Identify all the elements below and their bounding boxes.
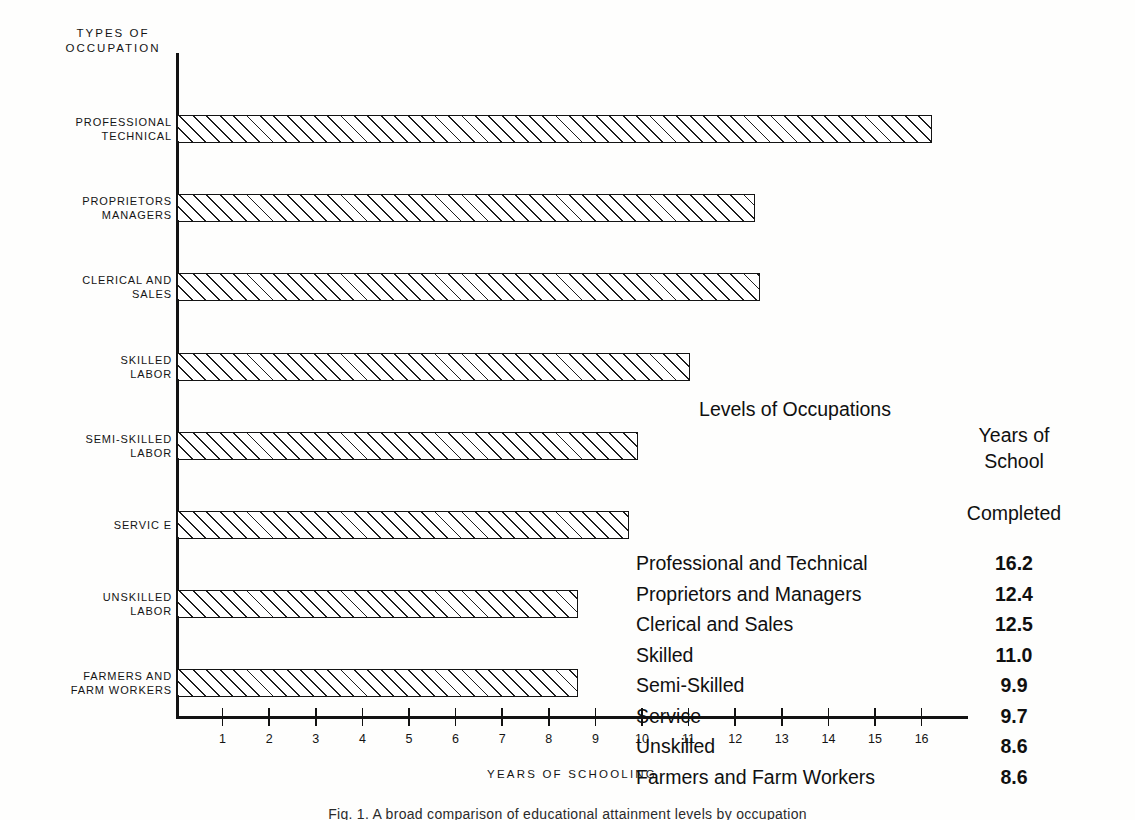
x-tick-2 — [268, 708, 270, 726]
category-label-7: FARMERS AND FARM WORKERS — [16, 669, 172, 697]
data-table: Levels of Occupations Years of School Co… — [636, 372, 1106, 796]
y-axis-line — [176, 53, 179, 718]
category-label-0: PROFESSIONAL TECHNICAL — [16, 115, 172, 143]
table-cell-years-3: 11.0 — [954, 644, 1074, 667]
bar-5 — [177, 511, 629, 539]
x-tick-label-6: 6 — [441, 732, 471, 746]
table-cell-occupation-7: Farmers and Farm Workers — [636, 766, 954, 789]
table-header-years-line2: Completed — [954, 500, 1074, 526]
x-tick-5 — [408, 708, 410, 726]
x-tick-6 — [455, 708, 457, 726]
x-tick-4 — [362, 708, 364, 726]
category-label-3: SKILLED LABOR — [16, 353, 172, 381]
bar-0 — [177, 115, 932, 143]
table-cell-years-7: 8.6 — [954, 766, 1074, 789]
bar-2 — [177, 273, 760, 301]
category-label-4: SEMI-SKILLED LABOR — [16, 432, 172, 460]
table-cell-occupation-0: Professional and Technical — [636, 552, 954, 575]
y-axis-title: TYPES OF OCCUPATION — [38, 26, 188, 56]
x-tick-label-7: 7 — [487, 732, 517, 746]
table-row: Service9.7 — [636, 705, 1106, 736]
table-row: Clerical and Sales12.5 — [636, 613, 1106, 644]
table-body: Professional and Technical16.2Proprietor… — [636, 552, 1106, 796]
table-header-years-line1: Years of School — [954, 422, 1074, 474]
table-cell-years-0: 16.2 — [954, 552, 1074, 575]
x-tick-3 — [315, 708, 317, 726]
bar-4 — [177, 432, 638, 460]
table-cell-occupation-3: Skilled — [636, 644, 954, 667]
bar-1 — [177, 194, 755, 222]
category-label-6: UNSKILLED LABOR — [16, 590, 172, 618]
table-cell-years-5: 9.7 — [954, 705, 1074, 728]
table-cell-occupation-5: Service — [636, 705, 954, 728]
x-tick-label-5: 5 — [394, 732, 424, 746]
table-header-years: Years of School Completed — [954, 396, 1074, 552]
x-tick-label-9: 9 — [580, 732, 610, 746]
x-tick-1 — [222, 708, 224, 726]
category-label-2: CLERICAL AND SALES — [16, 273, 172, 301]
table-row: Proprietors and Managers12.4 — [636, 583, 1106, 614]
table-row: Skilled11.0 — [636, 644, 1106, 675]
category-label-1: PROPRIETORS MANAGERS — [16, 194, 172, 222]
table-cell-years-1: 12.4 — [954, 583, 1074, 606]
table-header-occupations: Levels of Occupations — [636, 372, 954, 421]
table-row: Unskilled8.6 — [636, 735, 1106, 766]
table-cell-occupation-4: Semi-Skilled — [636, 674, 954, 697]
table-cell-years-2: 12.5 — [954, 613, 1074, 636]
bar-6 — [177, 590, 578, 618]
figure-root: TYPES OF OCCUPATION PROFESSIONAL TECHNIC… — [0, 0, 1135, 820]
table-cell-occupation-1: Proprietors and Managers — [636, 583, 954, 606]
x-tick-label-2: 2 — [254, 732, 284, 746]
table-row: Semi-Skilled9.9 — [636, 674, 1106, 705]
x-tick-label-8: 8 — [534, 732, 564, 746]
table-cell-occupation-2: Clerical and Sales — [636, 613, 954, 636]
table-cell-occupation-6: Unskilled — [636, 735, 954, 758]
table-row: Professional and Technical16.2 — [636, 552, 1106, 583]
x-tick-8 — [548, 708, 550, 726]
table-row: Farmers and Farm Workers8.6 — [636, 766, 1106, 797]
bar-3 — [177, 353, 690, 381]
bar-7 — [177, 669, 578, 697]
table-cell-years-6: 8.6 — [954, 735, 1074, 758]
figure-caption: Fig. 1. A broad comparison of educationa… — [0, 806, 1135, 820]
table-cell-years-4: 9.9 — [954, 674, 1074, 697]
category-label-5: SERVIC E — [16, 518, 172, 532]
table-header-row: Levels of Occupations Years of School Co… — [636, 372, 1106, 552]
x-tick-7 — [501, 708, 503, 726]
x-tick-label-1: 1 — [208, 732, 238, 746]
x-tick-9 — [595, 708, 597, 726]
x-tick-label-4: 4 — [347, 732, 377, 746]
x-tick-label-3: 3 — [301, 732, 331, 746]
